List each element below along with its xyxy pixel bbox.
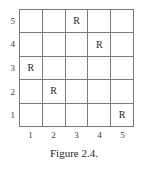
grid-cell-c3-r1 [66, 104, 89, 127]
rook-mark-c2-r2: R [50, 86, 57, 96]
column-label-1: 1 [19, 128, 42, 142]
grid-cell-c5-r5 [111, 10, 134, 33]
figure-2-4: 5 4 3 2 1 R R R R [0, 0, 148, 170]
row-axis-labels: 5 4 3 2 1 [2, 9, 17, 127]
figure-caption: Figure 2.4. [0, 147, 148, 159]
grid-cell-c2-r3 [43, 57, 66, 80]
grid-cell-c3-r2 [66, 80, 89, 103]
row-label-1: 1 [2, 103, 17, 127]
grid-cell-c4-r3 [88, 57, 111, 80]
column-label-3: 3 [65, 128, 88, 142]
grid-cell-c5-r4 [111, 33, 134, 56]
grid-cell-c5-r1: R [111, 104, 134, 127]
grid-cell-c4-r2 [88, 80, 111, 103]
column-label-4: 4 [88, 128, 111, 142]
grid-cell-c5-r3 [111, 57, 134, 80]
grid-cell-c4-r4: R [88, 33, 111, 56]
column-label-2: 2 [42, 128, 65, 142]
row-label-4: 4 [2, 33, 17, 57]
grid-cell-c2-r2: R [43, 80, 66, 103]
row-label-5: 5 [2, 9, 17, 33]
grid-cell-c4-r1 [88, 104, 111, 127]
grid-cell-c2-r4 [43, 33, 66, 56]
grid-cell-c1-r4 [20, 33, 43, 56]
grid-container: R R R R R [19, 9, 134, 127]
grid-cell-c2-r1 [43, 104, 66, 127]
grid-cell-c1-r5 [20, 10, 43, 33]
row-label-2: 2 [2, 80, 17, 104]
grid-cell-c1-r3: R [20, 57, 43, 80]
grid-cell-c3-r3 [66, 57, 89, 80]
grid-cell-c3-r5: R [66, 10, 89, 33]
grid-cell-c5-r2 [111, 80, 134, 103]
column-axis-labels: 1 2 3 4 5 [19, 128, 134, 142]
grid-cell-c1-r2 [20, 80, 43, 103]
row-label-3: 3 [2, 56, 17, 80]
grid-cell-c2-r5 [43, 10, 66, 33]
rook-placement-grid: R R R R R [19, 9, 134, 127]
rook-mark-c1-r3: R [28, 63, 35, 73]
grid-cell-c1-r1 [20, 104, 43, 127]
rook-mark-c4-r4: R [96, 40, 103, 50]
grid-cell-c3-r4 [66, 33, 89, 56]
grid-cell-c4-r5 [88, 10, 111, 33]
rook-mark-c5-r1: R [119, 110, 126, 120]
column-label-5: 5 [111, 128, 134, 142]
rook-mark-c3-r5: R [73, 16, 80, 26]
